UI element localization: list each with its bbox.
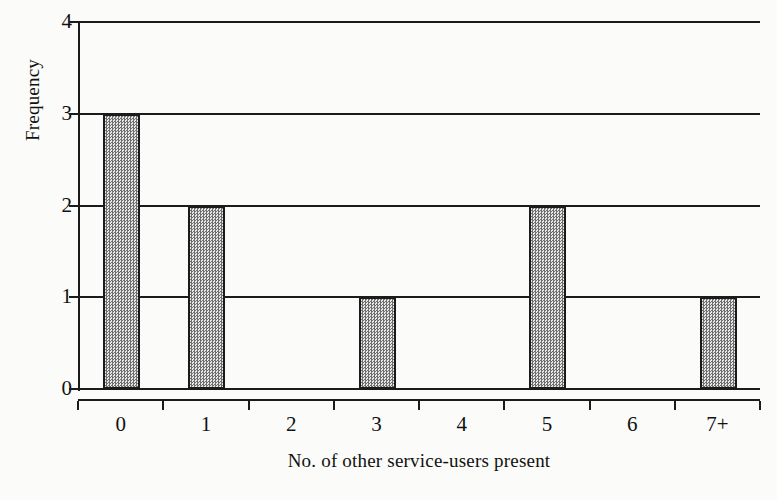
x-tick-mark xyxy=(248,401,250,410)
y-tick-mark xyxy=(69,113,78,115)
x-tick-mark xyxy=(759,401,761,410)
bar xyxy=(529,206,566,390)
x-tick-label: 5 xyxy=(517,412,577,437)
y-tick-mark xyxy=(69,388,78,390)
x-tick-mark xyxy=(77,401,79,410)
x-tick-mark xyxy=(418,401,420,410)
x-tick-label: 4 xyxy=(432,412,492,437)
x-tick-label: 7+ xyxy=(687,412,747,437)
gridline-y xyxy=(78,296,760,298)
bar-chart-figure: Frequency 01234 01234567+ No. of other s… xyxy=(0,0,777,500)
plot-area xyxy=(78,22,760,389)
gridline-y xyxy=(78,21,760,23)
x-tick-label: 1 xyxy=(176,412,236,437)
y-axis-tick-labels: 01234 xyxy=(44,0,72,420)
x-tick-label: 3 xyxy=(346,412,406,437)
gridline-y xyxy=(78,113,760,115)
x-tick-mark xyxy=(162,401,164,410)
y-tick-mark xyxy=(69,21,78,23)
x-tick-mark xyxy=(333,401,335,410)
y-tick-mark xyxy=(69,296,78,298)
gridline-y xyxy=(78,205,760,207)
x-tick-label: 6 xyxy=(602,412,662,437)
x-tick-mark xyxy=(674,401,676,410)
bar xyxy=(700,297,737,389)
x-tick-label: 0 xyxy=(91,412,151,437)
gridline-y xyxy=(78,388,760,390)
x-tick-mark xyxy=(503,401,505,410)
x-tick-label: 2 xyxy=(261,412,321,437)
y-tick-mark xyxy=(69,205,78,207)
x-axis-title: No. of other service-users present xyxy=(78,450,760,472)
bar xyxy=(188,206,225,390)
bar xyxy=(103,114,140,389)
bar xyxy=(359,297,396,389)
x-tick-mark xyxy=(589,401,591,410)
